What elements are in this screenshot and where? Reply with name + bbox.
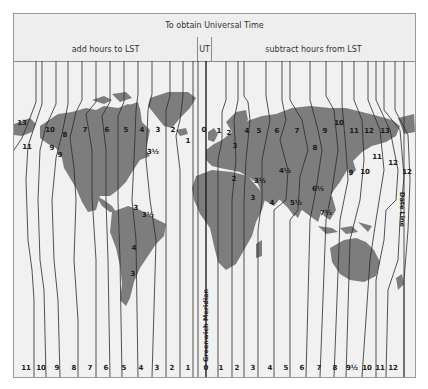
- zone-label: 8: [313, 144, 318, 152]
- bottom-scale-label: 6: [104, 364, 109, 372]
- zone-label: 5: [124, 126, 129, 134]
- zone-label: 13: [17, 119, 27, 127]
- zone-label: 2: [227, 129, 232, 137]
- bottom-scale-label: 10: [36, 364, 46, 372]
- zone-label: 3: [134, 204, 139, 212]
- land-masses: [14, 92, 415, 306]
- zone-label: 10: [360, 168, 370, 176]
- zone-label: 9: [323, 127, 328, 135]
- zone-label: 11: [22, 143, 32, 151]
- zone-label: 7½: [320, 209, 332, 217]
- zone-label: 2: [232, 175, 237, 183]
- zone-label: 10: [45, 126, 55, 134]
- bottom-scale-label: 11: [375, 364, 385, 372]
- bottom-scale-label: 4: [139, 364, 144, 372]
- bottom-scale-label: 7: [317, 364, 322, 372]
- bottom-scale-label: 9: [55, 364, 60, 372]
- zone-label: 3: [131, 270, 136, 278]
- zone-label: 12: [364, 127, 374, 135]
- zone-label: 2: [171, 126, 176, 134]
- bottom-scale-label: 6: [300, 364, 305, 372]
- bottom-scale-label: 10: [362, 364, 372, 372]
- bottom-scale-label: 4: [268, 364, 273, 372]
- bottom-scale-label: 0: [204, 364, 209, 372]
- bottom-scale-label: 2: [235, 364, 240, 372]
- zone-label: 4½: [279, 167, 291, 175]
- zone-label: 5½: [290, 199, 302, 207]
- bottom-scale-label: 11: [21, 364, 31, 372]
- zone-label: 5: [257, 127, 262, 135]
- bottom-scale-label: 3: [155, 364, 160, 372]
- zone-label: 9: [58, 151, 63, 159]
- zone-label: 4: [140, 126, 145, 134]
- zone-label: 12: [402, 168, 412, 176]
- bottom-scale-label: 8: [333, 364, 338, 372]
- zone-label: 9: [50, 144, 55, 152]
- zone-label: 4: [245, 127, 250, 135]
- zone-label: 3½: [142, 211, 154, 219]
- zone-label: 9: [349, 169, 354, 177]
- zone-label: 7: [83, 126, 88, 134]
- zone-label: 13: [380, 127, 390, 135]
- zone-label: 6: [105, 126, 110, 134]
- greenwich-meridian-label: Greenwich Meridian: [202, 288, 210, 362]
- zone-label: 3: [233, 142, 238, 150]
- zone-label: 3: [251, 194, 256, 202]
- zone-label: 1: [217, 127, 222, 135]
- zone-label: 4: [270, 199, 275, 207]
- zone-label: 4: [132, 244, 137, 252]
- bottom-scale-label: 1: [186, 364, 191, 372]
- zone-label: 10: [334, 119, 344, 127]
- bottom-scale-label: 5: [284, 364, 289, 372]
- bottom-scale-label: 1: [219, 364, 224, 372]
- bottom-scale-label: 2: [170, 364, 175, 372]
- zone-label: 8: [63, 131, 68, 139]
- zone-label: 6½: [312, 185, 324, 193]
- zone-label: 3½: [254, 177, 266, 185]
- zone-label: 0: [202, 126, 207, 134]
- zone-label: 3½: [147, 148, 159, 156]
- zone-label: 11: [349, 127, 359, 135]
- bottom-scale-label: 5: [122, 364, 127, 372]
- zone-label: 3: [156, 126, 161, 134]
- bottom-scale-label: 3: [251, 364, 256, 372]
- bottom-scale-label: 9½: [346, 364, 358, 372]
- bottom-scale-label: 8: [72, 364, 77, 372]
- zone-label: 11: [372, 153, 382, 161]
- bottom-scale-label: 12: [388, 364, 398, 372]
- zone-label: 6: [275, 127, 280, 135]
- bottom-scale-label: 7: [88, 364, 93, 372]
- zone-label: 7: [295, 127, 300, 135]
- world-time-zone-map: 13101189976543213½0123456789101112131112…: [0, 0, 428, 389]
- date-line-label: Date Line: [398, 192, 406, 228]
- zone-label: 1: [186, 137, 191, 145]
- zone-label: 12: [388, 159, 398, 167]
